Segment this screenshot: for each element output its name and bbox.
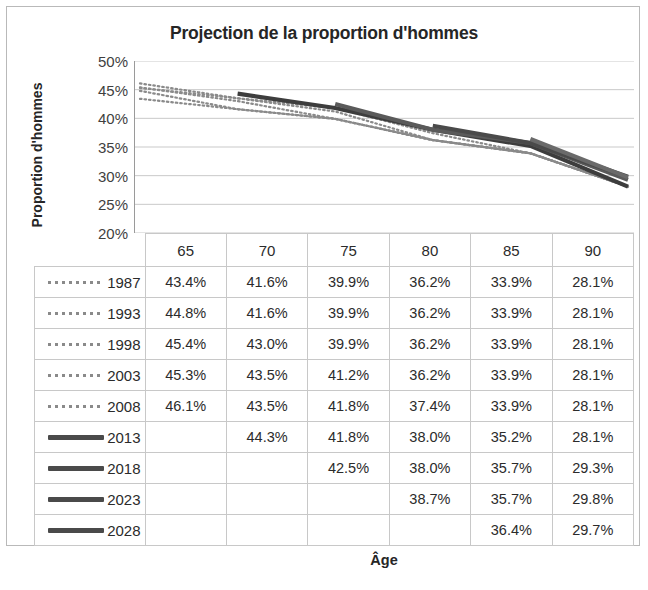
plot-svg xyxy=(134,61,634,233)
y-tick-label: 35% xyxy=(98,139,128,156)
table-cell: 43.0% xyxy=(226,329,307,360)
table-cell xyxy=(226,484,307,515)
table-cell: 43.5% xyxy=(226,391,307,422)
table-row: 202836.4%29.7% xyxy=(35,515,634,546)
table-cell: 35.7% xyxy=(471,484,552,515)
x-axis-title: Âge xyxy=(134,552,634,568)
table-row: 200846.1%43.5%41.8%37.4%33.9%28.1% xyxy=(35,391,634,422)
table-cell: 45.4% xyxy=(145,329,226,360)
column-header-70: 70 xyxy=(226,234,307,267)
table-cell: 28.1% xyxy=(552,298,633,329)
chart-screenshot: Projection de la proportion d'hommes Pro… xyxy=(0,0,648,590)
table-cell: 38.7% xyxy=(389,484,470,515)
table-cell: 41.6% xyxy=(226,267,307,298)
table-cell: 29.7% xyxy=(552,515,633,546)
column-header-75: 75 xyxy=(308,234,389,267)
table-cell: 46.1% xyxy=(145,391,226,422)
dotted-line-icon xyxy=(48,277,104,287)
table-cell: 43.5% xyxy=(226,360,307,391)
y-tick-label: 45% xyxy=(98,81,128,98)
table-cell xyxy=(145,422,226,453)
table-corner-cell xyxy=(35,234,146,267)
legend-entry-2018: 2018 xyxy=(35,453,146,484)
table-cell: 33.9% xyxy=(471,267,552,298)
legend-year-label: 1998 xyxy=(107,336,140,353)
legend-entry-1987: 1987 xyxy=(35,267,146,298)
chart-title: Projection de la proportion d'hommes xyxy=(7,23,641,44)
table-cell: 35.7% xyxy=(471,453,552,484)
series-line-1993 xyxy=(140,91,628,187)
plot-area xyxy=(134,61,634,233)
table-cell: 28.1% xyxy=(552,267,633,298)
legend-year-label: 2018 xyxy=(107,460,140,477)
y-tick-label: 25% xyxy=(98,196,128,213)
y-axis-tick-labels: 50%45%40%35%30%25%20% xyxy=(54,53,128,239)
table-cell xyxy=(145,515,226,546)
solid-line-icon xyxy=(48,463,104,473)
table-cell: 33.9% xyxy=(471,329,552,360)
table-row: 202338.7%35.7%29.8% xyxy=(35,484,634,515)
table-row: 201842.5%38.0%35.7%29.3% xyxy=(35,453,634,484)
legend-entry-2008: 2008 xyxy=(35,391,146,422)
table-cell xyxy=(308,515,389,546)
data-table: 657075808590198743.4%41.6%39.9%36.2%33.9… xyxy=(34,233,634,546)
table-row: 199845.4%43.0%39.9%36.2%33.9%28.1% xyxy=(35,329,634,360)
solid-line-icon xyxy=(48,494,104,504)
table-cell: 45.3% xyxy=(145,360,226,391)
legend-year-label: 2023 xyxy=(107,491,140,508)
dotted-line-icon xyxy=(48,401,104,411)
table-cell xyxy=(145,484,226,515)
table-cell: 38.0% xyxy=(389,422,470,453)
table-cell: 28.1% xyxy=(552,391,633,422)
table-row: 198743.4%41.6%39.9%36.2%33.9%28.1% xyxy=(35,267,634,298)
legend-entry-1998: 1998 xyxy=(35,329,146,360)
column-header-85: 85 xyxy=(471,234,552,267)
y-tick-label: 30% xyxy=(98,167,128,184)
table-cell: 38.0% xyxy=(389,453,470,484)
table-cell: 36.2% xyxy=(389,329,470,360)
legend-year-label: 2013 xyxy=(107,429,140,446)
table-cell: 39.9% xyxy=(308,267,389,298)
table-cell: 41.8% xyxy=(308,422,389,453)
table-cell: 41.2% xyxy=(308,360,389,391)
table-cell xyxy=(308,484,389,515)
y-tick-label: 40% xyxy=(98,110,128,127)
column-header-90: 90 xyxy=(552,234,633,267)
table-cell: 41.8% xyxy=(308,391,389,422)
table-cell: 44.8% xyxy=(145,298,226,329)
table-cell: 36.2% xyxy=(389,298,470,329)
table-cell xyxy=(389,515,470,546)
column-header-65: 65 xyxy=(145,234,226,267)
table-cell: 36.2% xyxy=(389,360,470,391)
legend-entry-2023: 2023 xyxy=(35,484,146,515)
table-cell: 33.9% xyxy=(471,391,552,422)
table-cell: 28.1% xyxy=(552,360,633,391)
table-cell: 36.2% xyxy=(389,267,470,298)
table-row: 201344.3%41.8%38.0%35.2%28.1% xyxy=(35,422,634,453)
table-cell: 36.4% xyxy=(471,515,552,546)
table-cell xyxy=(145,453,226,484)
legend-year-label: 1993 xyxy=(107,305,140,322)
solid-line-icon xyxy=(48,432,104,442)
dotted-line-icon xyxy=(48,308,104,318)
legend-entry-2003: 2003 xyxy=(35,360,146,391)
table-cell: 35.2% xyxy=(471,422,552,453)
table-cell: 29.3% xyxy=(552,453,633,484)
series-line-2008 xyxy=(140,83,628,186)
dotted-line-icon xyxy=(48,370,104,380)
legend-year-label: 1987 xyxy=(107,274,140,291)
table-cell: 43.4% xyxy=(145,267,226,298)
table-cell: 28.1% xyxy=(552,329,633,360)
legend-year-label: 2008 xyxy=(107,398,140,415)
legend-entry-2028: 2028 xyxy=(35,515,146,546)
y-tick-label: 50% xyxy=(98,53,128,70)
table-cell: 41.6% xyxy=(226,298,307,329)
table-cell: 28.1% xyxy=(552,422,633,453)
legend-year-label: 2003 xyxy=(107,367,140,384)
series-line-1987 xyxy=(140,99,628,187)
table-cell xyxy=(226,453,307,484)
table-cell: 44.3% xyxy=(226,422,307,453)
table-cell: 39.9% xyxy=(308,329,389,360)
chart-frame: Projection de la proportion d'hommes Pro… xyxy=(6,6,640,546)
series-line-2003 xyxy=(140,88,628,187)
